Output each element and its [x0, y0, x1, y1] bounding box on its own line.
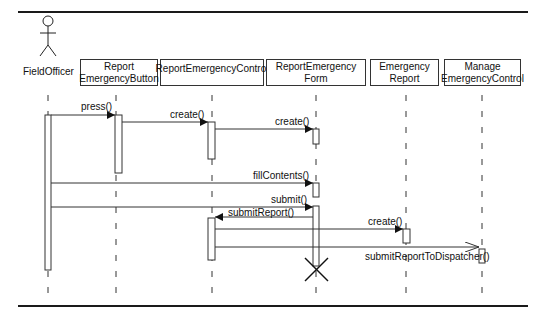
object-manage-emergency-control: Manage EmergencyControl [444, 59, 521, 86]
object-label-line1: Emergency [379, 61, 430, 73]
activation-form-3 [313, 206, 319, 266]
msg-label-fillcontents: fillContents() [253, 170, 309, 181]
activation-form-2 [313, 183, 319, 197]
msg-label-create-control: create() [170, 109, 204, 120]
object-label-line1: ReportEmergency [276, 61, 357, 73]
activation-report [403, 229, 410, 243]
msg-label-create-form: create() [275, 116, 309, 127]
object-emergency-report: Emergency Report [370, 59, 439, 86]
msg-label-create-report: create() [368, 216, 402, 227]
msg-label-press: press() [81, 101, 112, 112]
object-report-emergency-button: Report EmergencyButton [80, 59, 158, 86]
object-report-emergency-form: ReportEmergency Form [266, 59, 366, 86]
object-label-line2: EmergencyControl [441, 73, 524, 85]
actor-stick-figure-icon [40, 16, 56, 56]
object-label-line1: Report [104, 61, 134, 73]
object-label-line2: Report [389, 73, 419, 85]
object-report-emergency-control: ReportEmergencyControl [160, 59, 264, 86]
activation-button [115, 115, 122, 173]
object-label-line1: Manage [464, 61, 500, 73]
msg-label-submitreport: submitReport() [228, 207, 294, 218]
object-label-line1: ReportEmergencyControl [156, 63, 269, 75]
activation-control-2 [208, 218, 215, 260]
object-label-line2: Form [304, 73, 327, 85]
sequence-lines [0, 0, 543, 314]
activation-form-1 [313, 129, 319, 144]
object-label-line2: EmergencyButton [79, 73, 159, 85]
msg-label-submit: submit() [271, 194, 307, 205]
actor-label: FieldOfficer [23, 66, 74, 77]
activation-control-1 [208, 122, 215, 159]
activation-fieldofficer [45, 115, 51, 270]
msg-label-submitreporttodispatcher: submitReportToDispatcher() [365, 251, 490, 262]
